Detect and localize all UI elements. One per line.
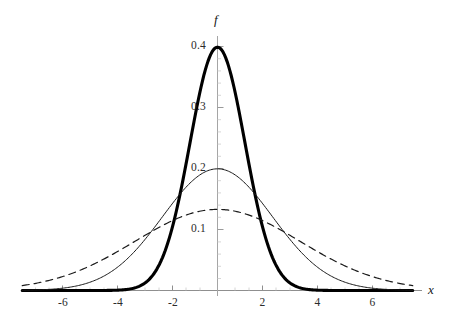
x-tick-label--2: -2: [161, 296, 185, 308]
x-tick-label-2: 2: [252, 296, 273, 308]
x-tick-label-6: 6: [362, 296, 383, 308]
x-tick-label-4: 4: [307, 296, 328, 308]
chart-canvas: [0, 0, 452, 328]
normal-distribution-chart: 0.1 0.2 0.3 0.4 -6 -4 -2 2 4 6 f x: [0, 0, 452, 328]
x-tick-label--6: -6: [51, 296, 75, 308]
y-tick-label-0.4: 0.4: [178, 39, 206, 51]
y-axis-major-ticks: [218, 47, 224, 230]
y-tick-label-0.1: 0.1: [178, 222, 206, 234]
x-axis-title: x: [428, 282, 434, 298]
y-tick-label-0.3: 0.3: [178, 100, 206, 112]
y-tick-label-0.2: 0.2: [178, 161, 206, 173]
x-tick-label--4: -4: [106, 296, 130, 308]
y-axis-title: f: [214, 12, 218, 28]
